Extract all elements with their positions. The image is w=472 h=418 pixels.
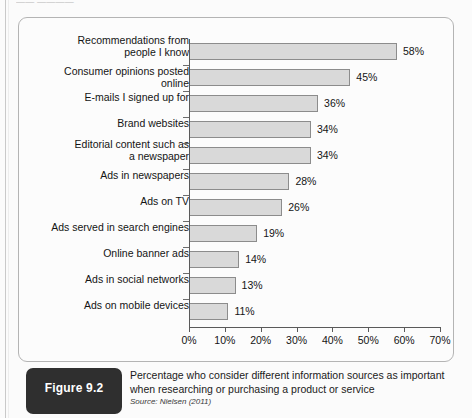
y-axis-tick [183, 299, 189, 300]
bar-row: Recommendations from people I know58% [19, 39, 455, 65]
y-axis-tick [183, 65, 189, 66]
bar-category-label: Editorial content such as a newspaper [39, 138, 189, 162]
bar-track: 19% [189, 225, 441, 242]
bar-track: 45% [189, 69, 441, 86]
bar-track: 36% [189, 95, 441, 112]
bar-track: 34% [189, 121, 441, 138]
chart-panel: Recommendations from people I know58%Con… [18, 17, 454, 362]
caption-title: Percentage who consider different inform… [130, 369, 452, 396]
y-axis-tick [183, 91, 189, 92]
x-axis-tick [297, 327, 298, 332]
caption-source: Source: Nielsen (2011) [130, 397, 452, 406]
bar-chart-plot: Recommendations from people I know58%Con… [19, 18, 455, 363]
y-axis-line [189, 39, 190, 327]
x-axis-tick [404, 327, 405, 332]
y-axis-tick [183, 273, 189, 274]
x-axis-tick [189, 327, 190, 332]
bar-track: 13% [189, 277, 441, 294]
x-axis-tick [368, 327, 369, 332]
y-axis-tick [183, 117, 189, 118]
bar-category-label: Online banner ads [39, 247, 189, 259]
bar-row: Ads on mobile devices11% [19, 299, 455, 325]
y-axis-tick [183, 195, 189, 196]
bar-category-label: Ads on TV [39, 195, 189, 207]
bar [189, 147, 311, 164]
bar [189, 95, 318, 112]
bar-value-label: 28% [295, 175, 316, 188]
y-axis-tick [183, 247, 189, 248]
x-axis-tick-label: 0% [181, 334, 196, 346]
bar-value-label: 34% [317, 123, 338, 136]
y-axis-tick [183, 169, 189, 170]
bar-row: Online banner ads14% [19, 247, 455, 273]
x-axis-tick-label: 10% [214, 334, 235, 346]
bar-track: 28% [189, 173, 441, 190]
page-edge-line [5, 0, 6, 418]
x-axis-tick-label: 50% [358, 334, 379, 346]
bar-row: Ads on TV26% [19, 195, 455, 221]
bar [189, 199, 282, 216]
bar-category-label: Ads in newspapers [39, 169, 189, 181]
x-axis-tick [332, 327, 333, 332]
bar-track: 34% [189, 147, 441, 164]
bar-value-label: 58% [403, 45, 424, 58]
y-axis-tick [183, 143, 189, 144]
y-axis-tick [183, 221, 189, 222]
bar [189, 251, 239, 268]
bar-category-label: Consumer opinions posted online [39, 65, 189, 89]
bar-row: Consumer opinions posted online45% [19, 65, 455, 91]
bar-value-label: 36% [324, 97, 345, 110]
bar-track: 14% [189, 251, 441, 268]
x-axis-line [189, 327, 440, 328]
bar-value-label: 34% [317, 149, 338, 162]
bar-value-label: 14% [245, 253, 266, 266]
figure-number-label: Figure 9.2 [26, 381, 122, 395]
bar-value-label: 26% [288, 201, 309, 214]
bar-value-label: 19% [263, 227, 284, 240]
x-axis-tick-label: 70% [429, 334, 450, 346]
bar [189, 69, 350, 86]
bar-track: 26% [189, 199, 441, 216]
bar-category-label: Ads on mobile devices [39, 299, 189, 311]
bar-category-label: E-mails I signed up for [39, 91, 189, 103]
bar-value-label: 11% [234, 305, 254, 318]
bar-rows: Recommendations from people I know58%Con… [19, 39, 455, 325]
bar [189, 43, 397, 60]
bar-track: 11% [189, 303, 441, 320]
bar [189, 277, 236, 294]
x-axis-tick-label: 20% [250, 334, 271, 346]
figure-caption: Figure 9.2 Percentage who consider diffe… [18, 368, 454, 418]
bar [189, 173, 289, 190]
bar-value-label: 13% [242, 279, 263, 292]
bar-row: Editorial content such as a newspaper34% [19, 143, 455, 169]
x-axis-tick-label: 30% [286, 334, 307, 346]
x-axis-tick [225, 327, 226, 332]
bar-category-label: Ads in social networks [39, 273, 189, 285]
figure-number-badge: Figure 9.2 [26, 368, 122, 414]
x-axis-tick [440, 327, 441, 332]
bar [189, 303, 228, 320]
bar-row: Ads in social networks13% [19, 273, 455, 299]
x-axis-tick [261, 327, 262, 332]
x-axis-tick-label: 40% [322, 334, 343, 346]
page-edge-line-secondary [8, 0, 9, 418]
bar-track: 58% [189, 43, 441, 60]
bar-row: Ads in newspapers28% [19, 169, 455, 195]
bar-row: Ads served in search engines19% [19, 221, 455, 247]
bar-value-label: 45% [356, 71, 377, 84]
bar-category-label: Ads served in search engines [39, 221, 189, 233]
bar-category-label: Brand websites [39, 117, 189, 129]
bar [189, 121, 311, 138]
clipped-page-text: —— ———— [16, 0, 136, 5]
x-axis-tick-label: 60% [394, 334, 415, 346]
bar [189, 225, 257, 242]
bar-category-label: Recommendations from people I know [39, 34, 189, 58]
bar-row: E-mails I signed up for36% [19, 91, 455, 117]
caption-text-block: Percentage who consider different inform… [130, 369, 452, 406]
